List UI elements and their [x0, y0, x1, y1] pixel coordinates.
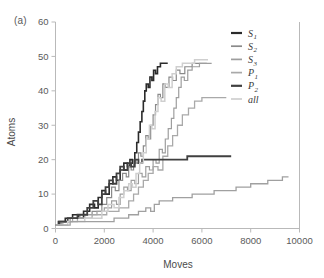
legend-label-P2: P2 — [247, 80, 259, 94]
atoms-vs-moves-chart: 0102030405060 0200040006000800010000 Ato… — [0, 0, 324, 278]
y-axis-ticks: 0102030405060 — [38, 16, 56, 234]
y-tick-label: 10 — [38, 188, 49, 199]
series-line-P2 — [56, 156, 232, 225]
y-axis-title: Atoms — [6, 118, 17, 146]
legend-label-all: all — [248, 94, 259, 105]
x-axis-ticks: 0200040006000800010000 — [53, 229, 313, 246]
y-tick-label: 30 — [38, 120, 49, 131]
x-tick-label: 6000 — [191, 235, 212, 246]
x-tick-label: 2000 — [94, 235, 115, 246]
x-tick-label: 8000 — [240, 235, 261, 246]
y-tick-label: 60 — [38, 16, 49, 27]
panel-label: (a) — [14, 15, 27, 26]
series-line-all — [56, 60, 209, 225]
y-tick-label: 40 — [38, 85, 49, 96]
x-tick-label: 10000 — [286, 235, 312, 246]
y-tick-label: 20 — [38, 154, 49, 165]
legend-label-S2: S2 — [248, 41, 258, 55]
x-tick-label: 4000 — [143, 235, 164, 246]
figure-panel-a: (a) 0102030405060 0200040006000800010000… — [0, 0, 324, 278]
legend-label-P1: P1 — [247, 67, 258, 81]
series-line-P1 — [56, 98, 227, 225]
chart-legend: S1S2S3P1P2all — [231, 28, 259, 105]
y-tick-label: 0 — [43, 223, 48, 234]
legend-label-S1: S1 — [248, 28, 257, 42]
x-tick-label: 0 — [53, 235, 58, 246]
x-axis-title: Moves — [163, 259, 192, 270]
y-tick-label: 50 — [38, 51, 49, 62]
legend-label-S3: S3 — [248, 54, 258, 68]
